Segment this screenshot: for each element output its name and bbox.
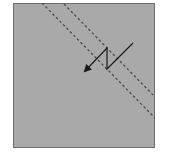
diagram-stage: Grey square panel with two parallel dash…: [0, 0, 176, 155]
diagram-canvas: [0, 0, 176, 155]
grey-panel: [14, 4, 155, 148]
